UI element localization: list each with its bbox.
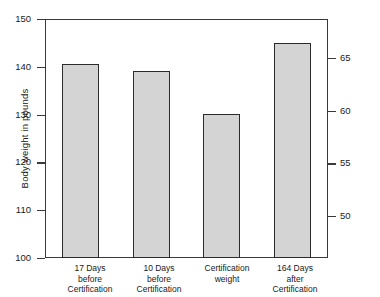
x-category-label-2: Certification weight bbox=[191, 263, 263, 284]
y-tick-right-50 bbox=[328, 216, 336, 217]
y-ticklabel-right-55: 55 bbox=[340, 158, 351, 168]
y-tick-right-55 bbox=[328, 163, 336, 164]
bar-164-days-after bbox=[274, 43, 311, 258]
x-category-label-1: 10 Days before Certification bbox=[123, 263, 195, 295]
y-tick-left-110 bbox=[37, 210, 45, 211]
y-ticklabel-left-100: 100 bbox=[0, 253, 31, 263]
y-tick-left-130 bbox=[37, 115, 45, 116]
y-tick-right-60 bbox=[328, 111, 336, 112]
y-tick-left-100 bbox=[37, 258, 45, 259]
x-category-label-0: 17 Days before Certification bbox=[54, 263, 126, 295]
y-tick-left-140 bbox=[37, 67, 45, 68]
x-category-label-3: 164 Days after Certification bbox=[259, 263, 331, 295]
y-ticklabel-left-120: 120 bbox=[0, 157, 31, 167]
y-tick-right-65 bbox=[328, 58, 336, 59]
y-axis-title-pounds: Body weight in pounds bbox=[19, 59, 30, 219]
y-tick-left-150 bbox=[37, 19, 45, 20]
y-ticklabel-right-60: 60 bbox=[340, 106, 351, 116]
y-tick-left-120 bbox=[37, 162, 45, 163]
y-ticklabel-left-130: 130 bbox=[0, 110, 31, 120]
y-ticklabel-left-140: 140 bbox=[0, 62, 31, 72]
y-ticklabel-right-65: 65 bbox=[340, 53, 351, 63]
y-ticklabel-left-150: 150 bbox=[0, 14, 31, 24]
bar-10-days-before bbox=[133, 71, 170, 258]
bar-17-days-before bbox=[62, 64, 99, 258]
bar-chart-figure: Body weight in pounds Body weight in kil… bbox=[0, 0, 380, 297]
bar-certification-weight bbox=[203, 114, 240, 258]
y-ticklabel-right-50: 50 bbox=[340, 211, 351, 221]
y-ticklabel-left-110: 110 bbox=[0, 205, 31, 215]
